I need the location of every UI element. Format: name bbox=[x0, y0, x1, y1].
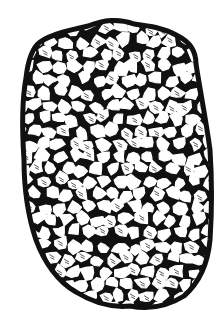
sponge-illustration bbox=[0, 0, 224, 328]
sponge-body bbox=[0, 0, 224, 328]
illustration-canvas bbox=[0, 0, 224, 328]
